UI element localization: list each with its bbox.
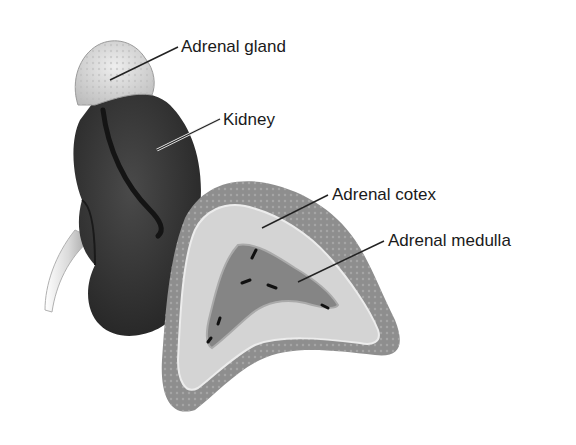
anatomy-illustration xyxy=(0,0,576,445)
label-adrenal-medulla: Adrenal medulla xyxy=(388,232,511,249)
label-adrenal-gland: Adrenal gland xyxy=(181,38,286,55)
label-kidney: Kidney xyxy=(223,111,275,128)
label-adrenal-cortex: Adrenal cotex xyxy=(332,186,436,203)
adrenal-diagram: Adrenal gland Kidney Adrenal cotex Adren… xyxy=(0,0,576,445)
